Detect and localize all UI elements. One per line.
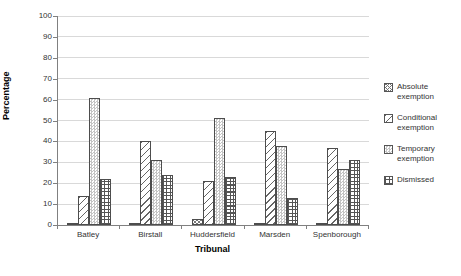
bar-batley-abs: [67, 223, 78, 225]
bar-marsden-cond: [265, 131, 276, 225]
gridline-100: [58, 16, 369, 17]
x-tick-3: [244, 226, 245, 229]
bar-birstall-dism: [162, 175, 173, 225]
bar-spenborough-cond: [327, 148, 338, 225]
legend-item-abs: Absolute exemption: [384, 82, 460, 102]
bar-spenborough-dism: [349, 160, 360, 225]
bar-birstall-abs: [129, 223, 140, 225]
legend-swatch-dism-icon: [384, 176, 393, 185]
y-tick-10: [53, 204, 57, 205]
gridline-90: [58, 36, 369, 37]
gridline-60: [58, 99, 369, 100]
legend-label: Absolute exemption: [397, 82, 460, 102]
y-tick-label-70: 70: [28, 74, 52, 83]
bar-batley-dism: [100, 179, 111, 225]
y-tick-20: [53, 183, 57, 184]
bar-marsden-dism: [287, 198, 298, 225]
bar-marsden-abs: [254, 223, 265, 225]
y-tick-label-20: 20: [28, 178, 52, 187]
y-tick-label-0: 0: [28, 220, 52, 229]
y-tick-90: [53, 37, 57, 38]
y-tick-label-80: 80: [28, 53, 52, 62]
legend-label: Temporary exemption: [397, 144, 460, 164]
x-category-label-huddersfield: Huddersfield: [181, 230, 243, 239]
y-tick-label-90: 90: [28, 32, 52, 41]
y-tick-80: [53, 58, 57, 59]
gridline-70: [58, 78, 369, 79]
y-tick-label-10: 10: [28, 199, 52, 208]
x-tick-4: [306, 226, 307, 229]
y-tick-70: [53, 79, 57, 80]
y-axis-title: Percentage: [1, 71, 11, 120]
bar-marsden-temp: [276, 146, 287, 225]
legend-label: Conditional exemption: [397, 113, 460, 133]
y-tick-label-50: 50: [28, 116, 52, 125]
bar-birstall-temp: [151, 160, 162, 225]
x-axis-title: Tribunal: [57, 244, 368, 254]
x-tick-2: [181, 226, 182, 229]
bar-huddersfield-abs: [192, 219, 203, 225]
x-tick-5: [368, 226, 369, 229]
y-tick-label-60: 60: [28, 95, 52, 104]
x-category-label-spenborough: Spenborough: [306, 230, 368, 239]
bar-batley-temp: [89, 98, 100, 225]
bar-huddersfield-temp: [214, 118, 225, 225]
x-category-label-marsden: Marsden: [244, 230, 306, 239]
legend-swatch-temp-icon: [384, 145, 393, 154]
y-tick-label-100: 100: [28, 11, 52, 20]
y-tick-label-40: 40: [28, 136, 52, 145]
legend-swatch-abs-icon: [384, 83, 393, 92]
gridline-80: [58, 57, 369, 58]
bar-batley-cond: [78, 196, 89, 225]
y-tick-30: [53, 162, 57, 163]
legend-label: Dismissed: [397, 175, 434, 185]
y-tick-label-30: 30: [28, 157, 52, 166]
legend-item-temp: Temporary exemption: [384, 144, 460, 164]
y-tick-50: [53, 121, 57, 122]
x-category-label-batley: Batley: [57, 230, 119, 239]
y-tick-40: [53, 141, 57, 142]
bar-chart: Percentage 0102030405060708090100BatleyB…: [0, 0, 461, 276]
bar-huddersfield-cond: [203, 181, 214, 225]
y-tick-60: [53, 100, 57, 101]
x-tick-0: [57, 226, 58, 229]
bar-birstall-cond: [140, 141, 151, 225]
x-category-label-birstall: Birstall: [119, 230, 181, 239]
y-tick-100: [53, 16, 57, 17]
legend-swatch-cond-icon: [384, 114, 393, 123]
bar-huddersfield-dism: [225, 177, 236, 225]
bar-spenborough-temp: [338, 169, 349, 225]
legend-item-dism: Dismissed: [384, 175, 434, 185]
plot-area: [57, 16, 369, 226]
x-tick-1: [119, 226, 120, 229]
bar-spenborough-abs: [316, 223, 327, 225]
legend-item-cond: Conditional exemption: [384, 113, 460, 133]
